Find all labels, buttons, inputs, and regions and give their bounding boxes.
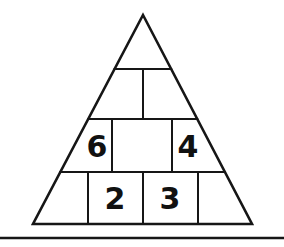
cell-value-r3-c3: 4 [178, 129, 199, 164]
cell-value-r4-c3: 3 [160, 181, 181, 216]
puzzle-canvas: 6423 [0, 0, 284, 247]
cell-value-r3-c1: 6 [87, 129, 108, 164]
cell-value-r4-c2: 2 [105, 181, 126, 216]
triangle-figure: 6423 [0, 0, 284, 247]
